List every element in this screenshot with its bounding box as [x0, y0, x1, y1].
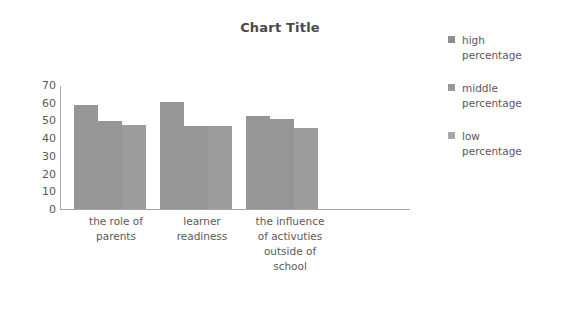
- bar-2-high: [160, 102, 184, 209]
- bar-3-low: [294, 128, 318, 209]
- legend-swatch-icon: [448, 36, 455, 43]
- legend-label-line2: percentage: [462, 144, 556, 159]
- x-axis-category-labels: the role ofparentslearnerreadinessthe in…: [60, 214, 410, 310]
- bar-group-1: [74, 86, 146, 209]
- category-label-line: parents: [66, 229, 166, 244]
- legend-item-3[interactable]: lowpercentage: [448, 129, 556, 159]
- chart-title: Chart Title: [150, 20, 410, 35]
- y-axis-tick-20: 20: [28, 169, 56, 181]
- category-label-line: school: [230, 259, 350, 274]
- legend-item-1[interactable]: highpercentage: [448, 33, 556, 63]
- bar-1-middle: [98, 121, 122, 209]
- legend-label-line1: middle: [462, 81, 556, 96]
- bar-group-2: [160, 86, 232, 209]
- category-label-1: the role ofparents: [66, 214, 166, 244]
- bar-group-3: [246, 86, 318, 209]
- legend-label-line1: high: [462, 33, 556, 48]
- y-axis-tick-40: 40: [28, 133, 56, 145]
- bar-3-high: [246, 116, 270, 209]
- bar-3-middle: [270, 119, 294, 209]
- bar-groups: [60, 86, 410, 210]
- bar-1-low: [122, 125, 146, 209]
- y-axis-tick-70: 70: [28, 80, 56, 92]
- category-label-line: the influence: [230, 214, 350, 229]
- y-axis-tick-10: 10: [28, 186, 56, 198]
- bar-1-high: [74, 105, 98, 209]
- y-axis-tick-50: 50: [28, 115, 56, 127]
- legend-item-2[interactable]: middlepercentage: [448, 81, 556, 111]
- plot-area: [60, 86, 410, 210]
- legend-label-line2: percentage: [462, 96, 556, 111]
- category-label-line: of activuties: [230, 229, 350, 244]
- bar-2-low: [208, 126, 232, 209]
- legend-swatch-icon: [448, 132, 455, 139]
- legend-label-line1: low: [462, 129, 556, 144]
- y-axis-tick-30: 30: [28, 151, 56, 163]
- category-label-line: outside of: [230, 244, 350, 259]
- category-label-line: the role of: [66, 214, 166, 229]
- chart-legend: highpercentagemiddlepercentagelowpercent…: [448, 33, 556, 177]
- legend-label-line2: percentage: [462, 48, 556, 63]
- category-label-3: the influenceof activutiesoutside ofscho…: [230, 214, 350, 274]
- legend-swatch-icon: [448, 84, 455, 91]
- bar-2-middle: [184, 126, 208, 209]
- y-axis-tick-60: 60: [28, 98, 56, 110]
- y-axis-tick-labels: 706050403020100: [28, 80, 56, 216]
- y-axis-tick-0: 0: [28, 204, 56, 216]
- bar-chart: Chart Title 706050403020100 the role ofp…: [0, 0, 561, 316]
